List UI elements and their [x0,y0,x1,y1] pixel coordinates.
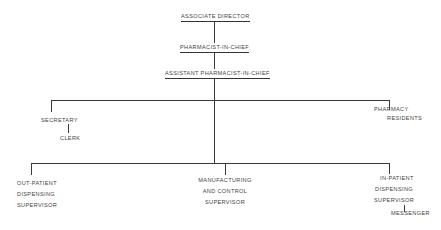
connector-secretary-to-clerk [68,124,69,133]
node-manufacturing-line1: MANUFACTURING [195,178,255,184]
node-messenger: MESSENGER [391,211,430,217]
node-assistant-pharmacist-in-chief: ASSISTANT PHARMACIST-IN-CHIEF [165,71,270,79]
connector-director-to-chief [214,21,215,43]
node-inpatient-line2: DISPENSING [375,187,413,193]
connector-to-inpatient [389,163,390,174]
node-secretary: SECRETARY [41,118,78,124]
connector-trunk [214,78,215,164]
node-pharmacy-residents-line2: RESIDENTS [387,116,422,122]
node-manufacturing-line2: AND CONTROL [195,189,255,195]
connector-chief-to-assistant [214,52,215,69]
node-outpatient-line2: DISPENSING [17,192,55,198]
node-associate-director: ASSOCIATE DIRECTOR [181,14,250,22]
connector-line-bar [31,163,390,164]
connector-to-outpatient [31,163,32,175]
connector-to-secretary [51,100,52,112]
node-pharmacy-residents-line1: PHARMACY [374,107,409,113]
connector-staff-bar [51,100,390,101]
connector-to-manufacturing [225,163,226,175]
node-manufacturing-line3: SUPERVISOR [195,200,255,206]
node-inpatient-line3: SUPERVISOR [374,198,414,204]
node-outpatient-line1: OUT-PATIENT [17,181,57,187]
node-outpatient-line3: SUPERVISOR [17,203,57,209]
node-clerk: CLERK [60,136,80,142]
node-inpatient-line1: IN-PATIENT [380,176,414,182]
node-pharmacist-in-chief: PHARMACIST-IN-CHIEF [180,45,249,53]
